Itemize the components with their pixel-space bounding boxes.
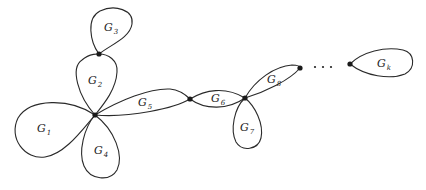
- vertex-center: [92, 112, 97, 117]
- vertex-g8-end: [297, 65, 302, 70]
- vertex-mid: [187, 96, 192, 101]
- label-g8: G8: [267, 73, 282, 88]
- vertices: [92, 51, 352, 117]
- label-gk: Gk: [377, 57, 391, 72]
- ellipsis: [314, 66, 332, 68]
- vertex-top: [96, 51, 101, 56]
- label-g1: G1: [37, 122, 51, 137]
- label-g5: G5: [138, 96, 153, 111]
- vertex-right: [242, 95, 247, 100]
- label-g6: G6: [211, 92, 226, 107]
- label-g7: G7: [240, 121, 255, 136]
- block-labels: G1 G2 G3 G4 G5 G6 G7 G8 Gk: [37, 21, 391, 159]
- label-g3: G3: [104, 21, 119, 36]
- label-g2: G2: [88, 74, 103, 89]
- label-g4: G4: [94, 144, 108, 159]
- loop-g1: [15, 103, 95, 158]
- block-graph-diagram: G1 G2 G3 G4 G5 G6 G7 G8 Gk: [0, 0, 426, 190]
- vertex-gk: [347, 61, 352, 66]
